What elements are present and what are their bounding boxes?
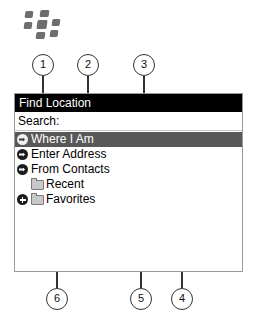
list-item-from-contacts[interactable]: From Contacts bbox=[15, 162, 242, 177]
list-item-label: Enter Address bbox=[31, 147, 106, 162]
title-bar: Find Location bbox=[15, 94, 242, 112]
callout-1: 1 bbox=[32, 54, 54, 76]
callout-3: 3 bbox=[133, 54, 155, 76]
circle-arrow-icon bbox=[17, 164, 28, 175]
list-item-label: Favorites bbox=[46, 192, 95, 207]
find-location-panel: Find Location Search: Where I Am Enter A… bbox=[14, 93, 243, 272]
screenshot-root: 1 2 3 6 5 4 Find Location Search: Where … bbox=[0, 0, 253, 326]
list-item-label: Recent bbox=[46, 177, 84, 192]
list-item-label: Where I Am bbox=[31, 132, 94, 147]
search-field-row[interactable]: Search: bbox=[15, 112, 242, 131]
callout-2: 2 bbox=[77, 54, 99, 76]
list-item-where-i-am[interactable]: Where I Am bbox=[15, 132, 242, 147]
blackberry-logo bbox=[23, 9, 71, 41]
search-label: Search: bbox=[18, 114, 59, 128]
circle-arrow-icon bbox=[17, 134, 28, 145]
list-item-recent[interactable]: Recent bbox=[15, 177, 242, 192]
callout-4: 4 bbox=[171, 288, 193, 310]
folder-icon bbox=[31, 180, 44, 190]
list-item-enter-address[interactable]: Enter Address bbox=[15, 147, 242, 162]
callout-6: 6 bbox=[46, 288, 68, 310]
list-item-label: From Contacts bbox=[31, 162, 110, 177]
callout-5: 5 bbox=[130, 288, 152, 310]
list-item-favorites[interactable]: Favorites bbox=[15, 192, 242, 207]
expand-plus-icon[interactable] bbox=[17, 194, 28, 205]
folder-icon bbox=[31, 195, 44, 205]
circle-arrow-icon bbox=[17, 149, 28, 160]
